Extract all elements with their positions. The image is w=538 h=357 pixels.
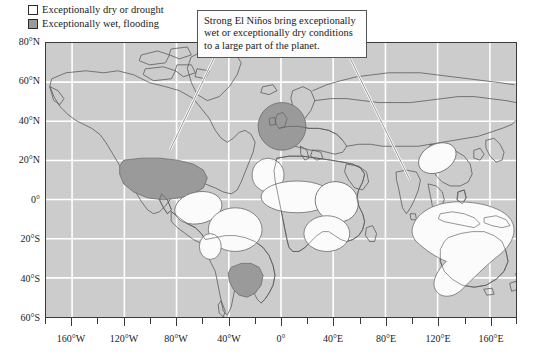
x-tick-minor (45, 318, 46, 324)
x-tick-minor (360, 318, 361, 324)
callout-line-3: to a large part of the planet. (204, 40, 360, 52)
x-tick-label: 120°E (425, 334, 450, 344)
x-tick (333, 318, 334, 326)
x-tick-label: 40°W (217, 334, 240, 344)
x-tick-minor (516, 318, 517, 324)
annotation-callout: Strong El Niños bring exceptionally wet … (197, 10, 367, 58)
x-tick-label: 160°W (57, 334, 85, 344)
x-tick-minor (202, 318, 203, 324)
x-tick (386, 318, 387, 326)
legend-item-dry: Exceptionally dry or drought (28, 3, 164, 16)
legend-item-wet-label: Exceptionally wet, flooding (42, 18, 159, 29)
x-tick (71, 318, 72, 326)
legend: Exceptionally dry or drought Exceptional… (28, 3, 164, 31)
x-tick-minor (412, 318, 413, 324)
square-swatch-icon (28, 5, 38, 15)
x-tick-label: 0° (277, 334, 286, 344)
x-tick-minor (255, 318, 256, 324)
x-tick-minor (97, 318, 98, 324)
legend-item-dry-label: Exceptionally dry or drought (42, 4, 164, 15)
legend-item-wet: Exceptionally wet, flooding (28, 17, 164, 30)
x-tick-label: 160°E (478, 334, 503, 344)
x-tick-label: 80°E (376, 334, 396, 344)
x-tick-minor (465, 318, 466, 324)
callout-line-1: Strong El Niños bring exceptionally (204, 15, 360, 27)
x-tick (124, 318, 125, 326)
x-tick (281, 318, 282, 326)
x-tick-minor (150, 318, 151, 324)
x-tick-minor (307, 318, 308, 324)
x-tick (438, 318, 439, 326)
x-tick (491, 318, 492, 326)
x-tick (176, 318, 177, 326)
callout-line-2: wet or exceptionally dry conditions (204, 27, 360, 39)
x-tick-label: 80°W (164, 334, 187, 344)
x-tick-label: 40°E (323, 334, 343, 344)
x-tick (229, 318, 230, 326)
square-swatch-icon (28, 19, 38, 29)
x-tick-label: 120°W (110, 334, 138, 344)
